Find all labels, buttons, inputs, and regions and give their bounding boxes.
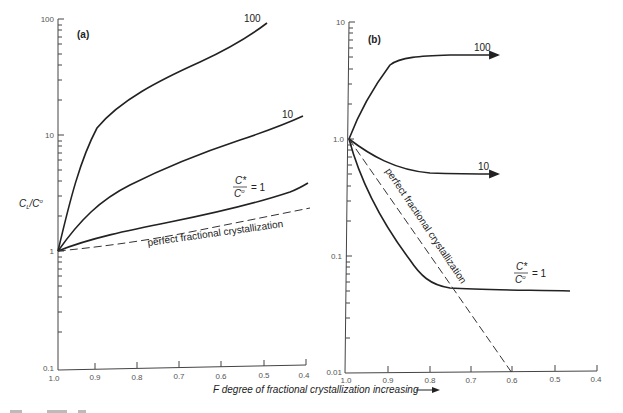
figure: 100 10 1 0.1 1.0 0.9 0.8 0.7 0.6 0.5 0.4…	[0, 0, 623, 413]
a-curve-100	[58, 23, 267, 251]
svg-text:C*: C*	[235, 175, 247, 186]
svg-text:0.4: 0.4	[590, 375, 602, 384]
svg-text:0.5: 0.5	[258, 371, 270, 380]
svg-text:0.7: 0.7	[465, 376, 477, 385]
a-ytick-1: 1	[50, 247, 55, 256]
b-label-ratio: C* Co = 1	[514, 261, 547, 285]
a-ytick-100: 100	[41, 15, 55, 24]
x-axis-label: F degree of fractional crystallization i…	[213, 384, 419, 395]
b-ytick-10: 10	[336, 18, 345, 27]
b-label-10: 10	[478, 161, 490, 172]
y-axis-label: CL/Co	[19, 198, 44, 210]
svg-text:= 1: = 1	[251, 182, 266, 193]
panel-b: 10 1.0 0.1 0.01 1.0 0.9 0.8 0.7 0.6 0.5 …	[326, 18, 602, 385]
b-ytick-1: 1.0	[333, 135, 345, 144]
panel-a-label: (a)	[77, 29, 89, 40]
svg-text:= 1: = 1	[532, 268, 547, 279]
b-label-100: 100	[474, 42, 491, 53]
svg-text:1.0: 1.0	[48, 374, 60, 383]
b-ytick-0.1: 0.1	[331, 252, 343, 261]
arrow-right-icon	[416, 387, 440, 393]
a-ytick-10: 10	[45, 131, 54, 140]
chart-canvas: 100 10 1 0.1 1.0 0.9 0.8 0.7 0.6 0.5 0.4…	[0, 0, 623, 413]
a-label-10: 10	[282, 109, 294, 120]
svg-text:0.7: 0.7	[173, 372, 185, 381]
a-label-ratio: C* Co = 1	[233, 175, 266, 199]
b-curve-10	[349, 139, 498, 174]
svg-text:0.6: 0.6	[506, 376, 518, 385]
svg-text:0.4: 0.4	[298, 371, 310, 380]
svg-text:0.5: 0.5	[549, 375, 561, 384]
a-x-tick-labels: 1.0 0.9 0.8 0.7 0.6 0.5 0.4	[48, 371, 310, 383]
panel-b-label: (b)	[368, 34, 381, 45]
svg-text:Co: Co	[515, 274, 526, 285]
svg-text:0.8: 0.8	[424, 376, 436, 385]
svg-text:0.9: 0.9	[89, 373, 101, 382]
svg-text:0.6: 0.6	[215, 372, 227, 381]
svg-text:C*: C*	[516, 261, 528, 272]
svg-text:0.8: 0.8	[131, 373, 143, 382]
b-curve-100	[349, 55, 498, 139]
a-ytick-0.1: 0.1	[43, 364, 55, 373]
b-label-perfect: perfect fractional crystallization	[383, 166, 469, 286]
svg-text:Co: Co	[234, 188, 245, 199]
b-y-axis	[345, 22, 349, 373]
a-label-100: 100	[244, 13, 261, 24]
panel-a: 100 10 1 0.1 1.0 0.9 0.8 0.7 0.6 0.5 0.4…	[19, 13, 310, 383]
